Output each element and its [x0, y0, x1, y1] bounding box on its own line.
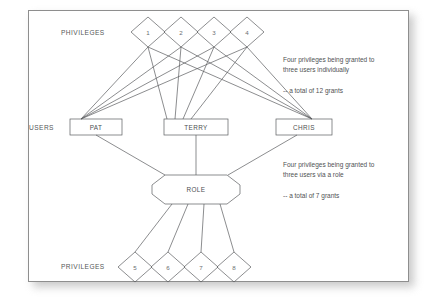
- diamond-p8-label: 8: [232, 264, 236, 271]
- row-label-bottom-privileges: PRIVILEGES: [61, 263, 105, 270]
- edge-p2-terry: [175, 47, 181, 119]
- diamond-p1-label: 1: [146, 29, 150, 36]
- box-pat-label: PAT: [90, 124, 103, 131]
- edge-role-p5: [135, 204, 172, 252]
- top-privilege-shapes: [131, 17, 264, 47]
- user-role-edges: [96, 135, 297, 175]
- annotation-role-line2: three users via a role: [283, 170, 344, 180]
- diagram-canvas: 1 2 3 4 PAT TERRY CHRIS ROLE 5 6 7 8 PHI…: [0, 0, 432, 304]
- edge-role-p6: [168, 204, 188, 252]
- annotation-role-line1: Four privileges being granted to: [283, 160, 374, 170]
- row-label-users: USERS: [29, 124, 54, 131]
- box-terry-label: TERRY: [184, 124, 208, 131]
- edge-p3-terry: [183, 47, 214, 119]
- edge-role-p7: [201, 204, 204, 252]
- diamond-p5-label: 5: [133, 264, 137, 271]
- annotation-role-total: -- a total of 7 grants: [283, 191, 339, 201]
- bottom-privilege-shapes: [118, 252, 251, 282]
- shape-role-label: ROLE: [186, 186, 205, 193]
- edge-p3-pat: [81, 47, 214, 119]
- diamond-p2-label: 2: [179, 29, 183, 36]
- annotation-individual-total: -- a total of 12 grants: [283, 86, 343, 96]
- annotation-individual-line1: Four privileges being granted to: [283, 55, 374, 65]
- diamond-p3-label: 3: [212, 29, 216, 36]
- row-label-top-privileges: PHIVILEGES: [61, 29, 105, 36]
- box-chris-label: CHRIS: [293, 124, 315, 131]
- diamond-p7-label: 7: [199, 264, 203, 271]
- edge-p2-pat: [81, 47, 181, 119]
- edge-p4-terry: [191, 47, 247, 119]
- privileges-role-diagram: 1 2 3 4 PAT TERRY CHRIS ROLE 5 6 7 8: [0, 0, 432, 304]
- edge-p1-pat: [81, 47, 148, 119]
- diamond-p4-label: 4: [245, 29, 249, 36]
- diamond-p6-label: 6: [166, 264, 170, 271]
- role-privilege-edges: [135, 204, 234, 252]
- edge-role-p8: [220, 204, 234, 252]
- edge-pat-role: [96, 135, 165, 175]
- direct-grant-edges: [81, 47, 312, 119]
- annotation-individual-line2: three users individually: [283, 65, 349, 75]
